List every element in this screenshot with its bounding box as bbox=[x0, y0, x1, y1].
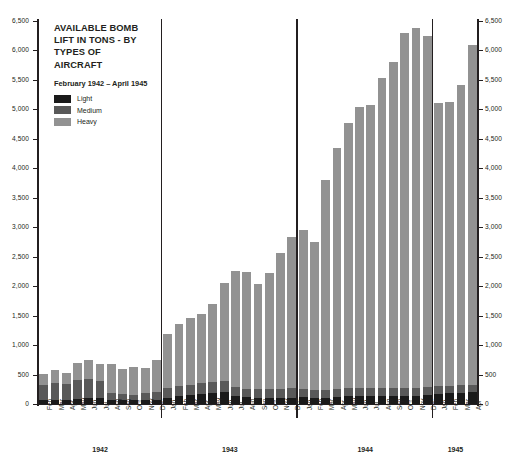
bar-segment-medium bbox=[84, 379, 93, 398]
bar-segment-medium bbox=[242, 389, 251, 397]
legend-swatch-heavy bbox=[54, 118, 71, 126]
bar-segment-medium bbox=[208, 382, 217, 393]
bar-segment-heavy bbox=[186, 318, 195, 385]
x-tick-label-month: Apr bbox=[204, 400, 211, 410]
y-tick bbox=[33, 21, 37, 22]
bar bbox=[287, 237, 296, 404]
bar-segment-heavy bbox=[445, 102, 454, 385]
x-tick-label-month: Jul bbox=[103, 402, 110, 410]
legend-item: Medium bbox=[54, 106, 149, 114]
bar-segment-heavy bbox=[220, 283, 229, 381]
x-tick-label-month: May bbox=[80, 398, 87, 410]
bar bbox=[299, 230, 308, 404]
bar-segment-medium bbox=[412, 388, 421, 396]
bar bbox=[197, 314, 206, 404]
y-tick bbox=[479, 198, 483, 199]
bar-segment-heavy bbox=[321, 180, 330, 390]
x-tick-label-month: Sep bbox=[396, 399, 403, 410]
y-tick-label-left: 500 bbox=[18, 371, 29, 378]
bar-segment-heavy bbox=[51, 370, 60, 384]
bar bbox=[321, 180, 330, 404]
bar bbox=[333, 148, 342, 404]
x-tick-label-month: Oct bbox=[272, 400, 279, 410]
bar-segment-heavy bbox=[118, 369, 127, 394]
y-tick-label-right: 2,500 bbox=[485, 253, 502, 260]
y-tick-label-right: 3,000 bbox=[485, 223, 502, 230]
bar bbox=[220, 283, 229, 404]
y-tick bbox=[479, 139, 483, 140]
bar bbox=[276, 253, 285, 404]
bar-segment-medium bbox=[254, 389, 263, 397]
y-tick-label-left: 2,000 bbox=[12, 282, 29, 289]
legend-label: Light bbox=[77, 95, 92, 102]
y-tick-label-left: 3,000 bbox=[12, 223, 29, 230]
y-tick-label-right: 5,500 bbox=[485, 76, 502, 83]
x-tick-label-month: Jul bbox=[238, 402, 245, 410]
bar-segment-medium bbox=[310, 390, 319, 398]
y-tick-label-right: 1,500 bbox=[485, 312, 502, 319]
bar-segment-heavy bbox=[366, 105, 375, 388]
bar-segment-medium bbox=[468, 385, 477, 393]
bar bbox=[468, 45, 477, 404]
bar bbox=[208, 304, 217, 404]
bar-segment-heavy bbox=[96, 364, 105, 381]
bar-segment-medium bbox=[197, 383, 206, 394]
y-tick-label-left: 4,500 bbox=[12, 135, 29, 142]
bar-segment-medium bbox=[287, 388, 296, 397]
legend-item: Light bbox=[54, 95, 149, 103]
bar-segment-heavy bbox=[468, 45, 477, 385]
y-tick bbox=[33, 286, 37, 287]
x-tick-label-month: Apr bbox=[69, 400, 76, 410]
x-tick-label-month: Apr bbox=[340, 400, 347, 410]
bar-segment-heavy bbox=[152, 360, 161, 392]
bar-segment-heavy bbox=[344, 123, 353, 388]
bar bbox=[389, 62, 398, 404]
y-tick-label-left: 5,500 bbox=[12, 76, 29, 83]
chart-subtitle: February 1942 – April 1945 bbox=[54, 79, 149, 88]
bar-segment-medium bbox=[163, 388, 172, 397]
bar-segment-medium bbox=[299, 389, 308, 397]
bar-segment-heavy bbox=[62, 373, 71, 384]
bar-segment-heavy bbox=[265, 273, 274, 388]
bar-segment-heavy bbox=[242, 272, 251, 389]
x-tick-label-month: Feb bbox=[317, 399, 324, 410]
bar-segment-medium bbox=[51, 383, 60, 399]
title-block: AVAILABLE BOMB LIFT IN TONS - BY TYPES O… bbox=[54, 22, 149, 129]
y-tick bbox=[479, 375, 483, 376]
bar-segment-medium bbox=[434, 386, 443, 394]
y-tick bbox=[33, 227, 37, 228]
y-tick-label-right: 1,000 bbox=[485, 341, 502, 348]
y-tick bbox=[33, 139, 37, 140]
bar-segment-heavy bbox=[107, 364, 116, 393]
bar bbox=[445, 102, 454, 404]
x-axis-year-label: 1945 bbox=[433, 446, 478, 453]
bar-segment-medium bbox=[400, 388, 409, 396]
bar-segment-heavy bbox=[389, 62, 398, 388]
bar-segment-medium bbox=[62, 384, 71, 400]
bar bbox=[265, 273, 274, 404]
bar-segment-heavy bbox=[457, 85, 466, 386]
y-tick bbox=[33, 375, 37, 376]
x-axis-year-label: 1944 bbox=[297, 446, 432, 453]
x-tick-label-month: Jun bbox=[227, 400, 234, 410]
bar bbox=[96, 364, 105, 404]
bar-segment-heavy bbox=[299, 230, 308, 389]
bar-segment-heavy bbox=[434, 103, 443, 386]
y-tick bbox=[33, 257, 37, 258]
bar-segment-medium bbox=[276, 389, 285, 398]
x-tick-label-month: Dec bbox=[430, 399, 437, 410]
x-tick-label-month: Jun bbox=[362, 400, 369, 410]
x-tick-label-month: Sep bbox=[261, 399, 268, 410]
bar bbox=[400, 33, 409, 404]
bar-segment-heavy bbox=[129, 367, 138, 394]
bar bbox=[231, 271, 240, 404]
y-tick bbox=[479, 21, 483, 22]
legend: LightMediumHeavy bbox=[54, 95, 149, 126]
y-tick-label-left: 6,000 bbox=[12, 46, 29, 53]
y-tick-label-left: 1,000 bbox=[12, 341, 29, 348]
bar bbox=[254, 284, 263, 404]
y-tick-label-left: 4,000 bbox=[12, 164, 29, 171]
y-tick bbox=[33, 404, 37, 405]
x-axis-year-label: 1943 bbox=[162, 446, 297, 453]
bar-segment-medium bbox=[389, 388, 398, 396]
